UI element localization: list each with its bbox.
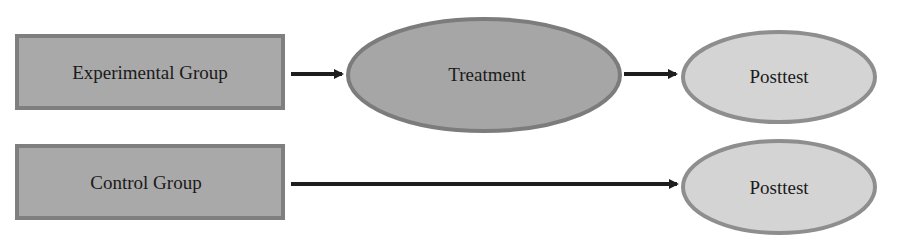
posttest-control-node: Posttest — [683, 141, 875, 233]
treatment-label: Treatment — [448, 64, 526, 85]
control-group-node: Control Group — [17, 146, 283, 218]
experimental-group-node: Experimental Group — [17, 36, 283, 108]
posttest-control-label: Posttest — [749, 177, 809, 198]
treatment-node: Treatment — [348, 19, 620, 131]
posttest-experimental-node: Posttest — [683, 32, 875, 122]
control-group-label: Control Group — [90, 172, 201, 193]
experimental-group-label: Experimental Group — [72, 62, 228, 83]
research-design-diagram: Experimental Group Treatment Posttest Co… — [0, 0, 902, 249]
posttest-experimental-label: Posttest — [749, 66, 809, 87]
